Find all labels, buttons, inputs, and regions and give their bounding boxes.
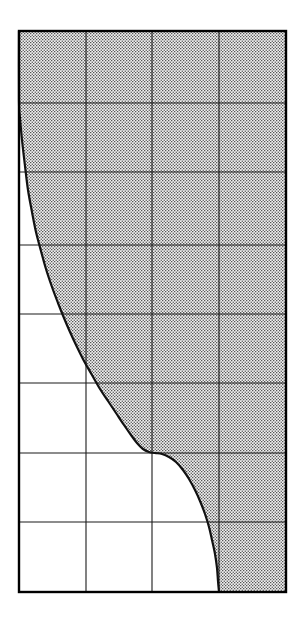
plot-area <box>0 0 303 620</box>
figure-container <box>0 0 303 620</box>
